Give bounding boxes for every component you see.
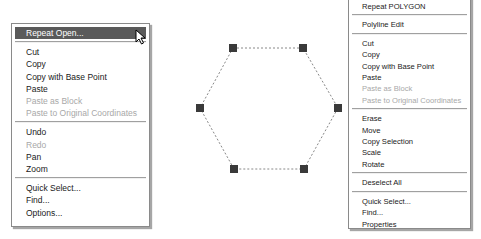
menu-item-cut[interactable]: Cut (15, 46, 146, 58)
menu-item-quick-select[interactable]: Quick Select... (15, 182, 146, 194)
menu-item-paste-as-block: Paste as Block (15, 95, 146, 107)
menu-item-repeat-polygon[interactable]: Repeat POLYGON (352, 1, 467, 12)
menu-item-properties[interactable]: Properties (352, 219, 467, 230)
default-context-menu: Repeat Open... Cut Copy Copy with Base P… (11, 23, 150, 227)
menu-separator (352, 33, 467, 35)
menu-item-paste-to-original-coordinates: Paste to Original Coordinates (352, 95, 467, 106)
menu-item-rotate[interactable]: Rotate (352, 159, 467, 170)
menu-separator (352, 108, 467, 110)
menu-item-polyline-edit[interactable]: Polyline Edit (352, 19, 467, 30)
menu-item-copy-with-base-point[interactable]: Copy with Base Point (15, 71, 146, 83)
menu-item-cut[interactable]: Cut (352, 38, 467, 49)
menu-item-paste-to-original-coordinates: Paste to Original Coordinates (15, 107, 146, 119)
menu-item-copy-with-base-point[interactable]: Copy with Base Point (352, 61, 467, 72)
menu-item-pan[interactable]: Pan (15, 151, 146, 163)
menu-separator (15, 121, 146, 123)
menu-item-move[interactable]: Move (352, 125, 467, 136)
menu-item-paste[interactable]: Paste (15, 83, 146, 95)
grip-top-left[interactable] (229, 44, 237, 52)
menu-separator (352, 172, 467, 174)
grip-bottom-right[interactable] (300, 165, 308, 173)
menu-item-repeat-open[interactable]: Repeat Open... (15, 27, 146, 39)
menu-item-paste[interactable]: Paste (352, 72, 467, 83)
menu-separator (15, 177, 146, 179)
menu-item-zoom[interactable]: Zoom (15, 163, 146, 175)
menu-item-erase[interactable]: Erase (352, 113, 467, 124)
menu-item-undo[interactable]: Undo (15, 126, 146, 138)
menu-item-label: Repeat Open... (26, 28, 84, 38)
menu-separator (352, 14, 467, 16)
grip-top-right[interactable] (299, 44, 307, 52)
grip-bottom-left[interactable] (230, 165, 238, 173)
menu-item-copy[interactable]: Copy (352, 49, 467, 60)
menu-item-deselect-all[interactable]: Deselect All (352, 177, 467, 188)
menu-separator (352, 191, 467, 193)
mouse-pointer-icon (135, 29, 147, 45)
menu-item-find[interactable]: Find... (15, 194, 146, 206)
menu-item-quick-select[interactable]: Quick Select... (352, 196, 467, 207)
menu-item-redo: Redo (15, 139, 146, 151)
menu-item-options[interactable]: Options... (15, 207, 146, 219)
menu-item-paste-as-block: Paste as Block (352, 83, 467, 94)
menu-item-scale[interactable]: Scale (352, 147, 467, 158)
menu-item-copy-selection[interactable]: Copy Selection (352, 136, 467, 147)
selection-context-menu: Repeat POLYGON Polyline Edit Cut Copy Co… (348, 0, 471, 229)
grip-left[interactable] (196, 104, 204, 112)
menu-item-find[interactable]: Find... (352, 207, 467, 218)
menu-separator (15, 41, 146, 43)
menu-item-copy[interactable]: Copy (15, 58, 146, 70)
grip-right[interactable] (334, 104, 342, 112)
